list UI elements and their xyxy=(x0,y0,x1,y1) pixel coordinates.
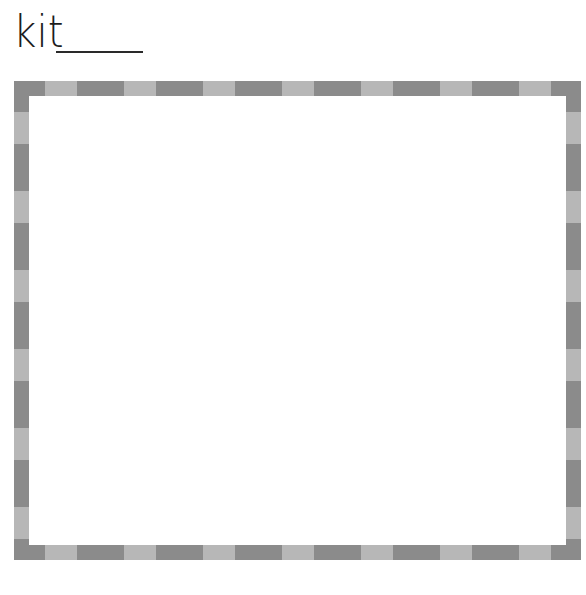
border-segment-light xyxy=(519,545,551,560)
border-segment-dark xyxy=(235,81,282,96)
border-segment-dark xyxy=(14,381,29,428)
border-segment-light xyxy=(14,428,29,460)
border-segment-light xyxy=(519,81,551,96)
border-right xyxy=(566,81,581,560)
border-top xyxy=(14,81,581,96)
border-segment-light xyxy=(566,349,581,381)
border-segment-dark xyxy=(393,81,440,96)
border-segment-dark xyxy=(156,545,203,560)
border-bottom xyxy=(14,545,581,560)
border-segment-light xyxy=(14,349,29,381)
border-segment-dark xyxy=(566,381,581,428)
border-segment-light xyxy=(14,191,29,223)
border-segment-light xyxy=(282,81,314,96)
answer-blank-line[interactable] xyxy=(56,51,143,53)
border-segment-light xyxy=(361,81,393,96)
border-segment-light xyxy=(566,112,581,144)
border-segment-light xyxy=(566,270,581,302)
border-segment-dark xyxy=(472,545,519,560)
border-segment-dark xyxy=(566,539,581,560)
border-segment-light xyxy=(14,112,29,144)
border-segment-light xyxy=(282,545,314,560)
border-segment-dark xyxy=(566,223,581,270)
drawing-area[interactable] xyxy=(29,96,566,545)
border-segment-light xyxy=(440,81,472,96)
border-segment-dark xyxy=(566,302,581,349)
border-segment-light xyxy=(566,428,581,460)
border-segment-dark xyxy=(314,545,361,560)
border-segment-light xyxy=(566,507,581,539)
vocabulary-word: kit xyxy=(13,10,64,54)
border-segment-light xyxy=(14,507,29,539)
border-segment-dark xyxy=(566,144,581,191)
border-segment-light xyxy=(124,81,156,96)
border-segment-light xyxy=(45,81,77,96)
border-segment-dark xyxy=(393,545,440,560)
border-segment-dark xyxy=(14,144,29,191)
drawing-box xyxy=(14,81,581,560)
border-segment-light xyxy=(440,545,472,560)
border-segment-light xyxy=(203,81,235,96)
border-segment-dark xyxy=(472,81,519,96)
border-segment-dark xyxy=(14,539,29,560)
border-segment-dark xyxy=(14,460,29,507)
border-segment-dark xyxy=(566,81,581,112)
border-segment-dark xyxy=(77,545,124,560)
border-segment-light xyxy=(203,545,235,560)
border-segment-dark xyxy=(156,81,203,96)
border-segment-dark xyxy=(235,545,282,560)
border-segment-dark xyxy=(566,460,581,507)
border-segment-light xyxy=(566,191,581,223)
border-segment-dark xyxy=(314,81,361,96)
border-segment-dark xyxy=(14,81,29,112)
border-segment-light xyxy=(124,545,156,560)
border-left xyxy=(14,81,29,560)
border-segment-dark xyxy=(14,302,29,349)
border-segment-dark xyxy=(77,81,124,96)
border-segment-dark xyxy=(14,223,29,270)
border-segment-light xyxy=(14,270,29,302)
border-segment-light xyxy=(361,545,393,560)
border-segment-light xyxy=(45,545,77,560)
